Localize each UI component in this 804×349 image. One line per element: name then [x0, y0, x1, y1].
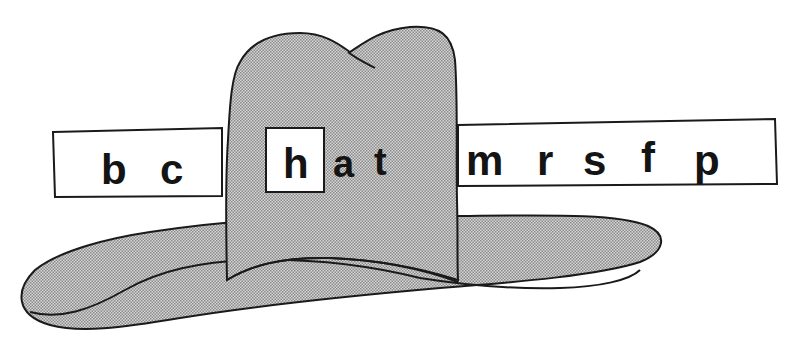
strip-letter-s: s [583, 140, 606, 182]
word-letter-a: a [333, 145, 354, 183]
word-letter-t: t [374, 143, 387, 181]
strip-letter-f: f [641, 137, 655, 179]
strip-letter-b: b [101, 149, 127, 191]
strip-letter-m: m [466, 140, 503, 182]
strip-letter-r: r [537, 140, 553, 182]
strip-letter-p: p [694, 140, 720, 182]
strip-letter-c: c [160, 149, 183, 191]
window-letter-h: h [283, 143, 309, 185]
